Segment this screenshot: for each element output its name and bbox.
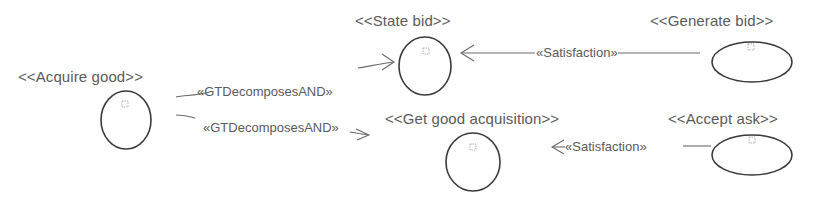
- node-get-good-acquisition-shape[interactable]: [446, 133, 500, 191]
- diagram-svg: [0, 0, 834, 201]
- node-label-accept-ask: <<Accept ask>>: [668, 110, 778, 127]
- edge-label-satisfaction-2: «Satisfaction»: [565, 139, 647, 154]
- anchor-icon: [423, 48, 429, 54]
- edge-label-gtdecomposes-2: «GTDecomposesAND»: [203, 120, 339, 135]
- node-label-acquire-good: <<Acquire good>>: [18, 68, 143, 85]
- anchor-icon: [748, 44, 754, 50]
- node-accept-ask-shape[interactable]: [712, 135, 792, 175]
- node-acquire-good-shape[interactable]: [101, 91, 151, 149]
- node-label-get-good-acquisition: <<Get good acquisition>>: [385, 110, 559, 127]
- anchor-icon: [122, 101, 128, 107]
- diagram-canvas: <<Acquire good>> <<State bid>> <<Get goo…: [0, 0, 834, 201]
- node-label-state-bid: <<State bid>>: [355, 12, 451, 29]
- anchor-icon: [749, 137, 755, 143]
- node-generate-bid-shape[interactable]: [712, 42, 792, 82]
- anchor-icon: [470, 144, 476, 150]
- node-label-generate-bid: <<Generate bid>>: [650, 12, 773, 29]
- edge-label-satisfaction-1: «Satisfaction»: [536, 45, 618, 60]
- edge-label-gtdecomposes-1: «GTDecomposesAND»: [197, 84, 333, 99]
- node-state-bid-shape[interactable]: [399, 37, 451, 95]
